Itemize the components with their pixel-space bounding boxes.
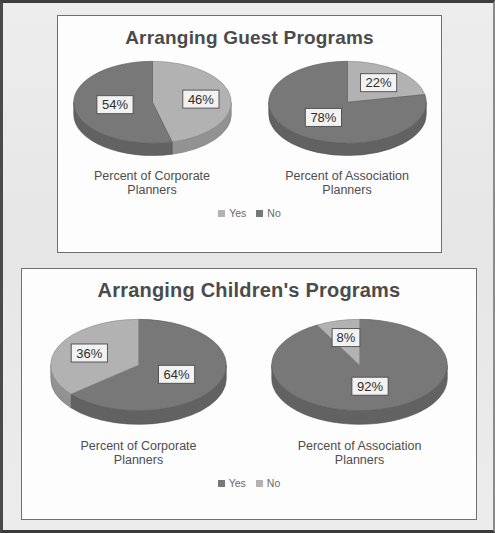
chart-legend-children: Yes No [22,477,476,489]
pie-value-label-no: 78% [305,108,341,126]
pie-category-label-children-corporate: Percent of Corporate Planners [80,439,196,467]
pie-category-label-guest-corporate: Percent of Corporate Planners [94,169,210,197]
pie-chart-guest-association: 22%78% [260,53,435,165]
pie-group-children: 64%36% Percent of Corporate Planners 92%… [22,310,476,467]
value-label-text: 22% [365,75,391,90]
value-label-text: 36% [76,346,102,361]
label-line-2: Planners [298,453,422,467]
label-line-1: Percent of Corporate [80,439,196,453]
pie-value-label-no: 36% [71,344,107,362]
chart-title-children-programs: Arranging Children's Programs [22,269,476,302]
pie-block-children-association: 92%8% Percent of Association Planners [262,310,457,467]
label-line-2: Planners [80,453,196,467]
pie-block-guest-association: 22%78% Percent of Association Planners [260,53,435,197]
value-label-text: 64% [164,367,190,382]
value-label-text: 54% [101,97,127,112]
legend-label-no: No [267,477,280,489]
pie-value-label-yes: 46% [182,90,218,108]
legend-item-no: No [256,477,280,489]
legend-item-yes: Yes [218,477,246,489]
pie-value-label-no: 8% [332,329,360,347]
value-label-text: 78% [310,110,336,125]
pie-chart-guest-corporate: 46%54% [65,53,240,165]
label-line-1: Percent of Association [285,169,409,183]
pie-value-label-no: 54% [96,96,132,114]
label-line-1: Percent of Association [298,439,422,453]
chart-title-guest-programs: Arranging Guest Programs [58,16,441,49]
legend-swatch-icon-yes [218,480,225,487]
pie-group-guest: 46%54% Percent of Corporate Planners 22%… [58,53,441,197]
legend-swatch-icon-no [256,210,263,217]
chart-panel-children-programs: Arranging Children's Programs 64%36% Per… [21,268,477,520]
pie-chart-children-corporate: 64%36% [41,310,236,435]
legend-label-yes: Yes [229,477,246,489]
pie-block-guest-corporate: 46%54% Percent of Corporate Planners [65,53,240,197]
legend-swatch-icon-no [256,480,263,487]
pie-category-label-guest-association: Percent of Association Planners [285,169,409,197]
value-label-text: 8% [337,330,356,345]
pie-block-children-corporate: 64%36% Percent of Corporate Planners [41,310,236,467]
label-line-1: Percent of Corporate [94,169,210,183]
pie-category-label-children-association: Percent of Association Planners [298,439,422,467]
chart-panel-guest-programs: Arranging Guest Programs 46%54% Percent … [57,15,442,253]
pie-chart-children-association: 92%8% [262,310,457,435]
value-label-text: 46% [187,92,213,107]
chart-legend-guest: Yes No [58,207,441,219]
pie-value-label-yes: 22% [360,74,396,92]
label-line-2: Planners [94,183,210,197]
pie-value-label-yes: 92% [352,377,388,395]
value-label-text: 92% [357,379,383,394]
legend-label-yes: Yes [229,207,246,219]
legend-swatch-icon-yes [218,210,225,217]
document-page: Arranging Guest Programs 46%54% Percent … [0,0,495,533]
label-line-2: Planners [285,183,409,197]
legend-label-no: No [267,207,280,219]
legend-item-yes: Yes [218,207,246,219]
legend-item-no: No [256,207,280,219]
pie-value-label-yes: 64% [159,365,195,383]
